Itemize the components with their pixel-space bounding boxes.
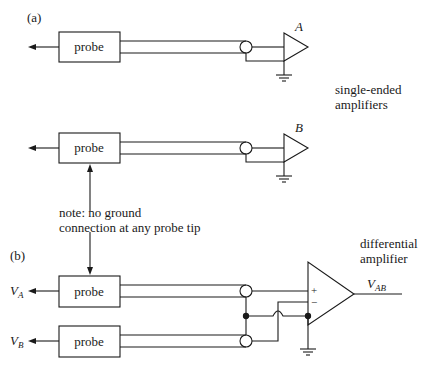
differential-caption-line1: differential — [360, 236, 418, 251]
single-ended-caption-line1: single-ended — [335, 82, 401, 97]
arrow-up-icon — [87, 164, 93, 172]
coax-connector-icon — [240, 41, 252, 53]
output-arrow-icon — [28, 338, 36, 344]
signal-vb-label: VB — [10, 333, 23, 350]
arrow-down-icon — [87, 267, 93, 275]
coax-connector-icon — [240, 142, 252, 154]
coax-connector-icon — [240, 285, 252, 297]
single-ended-caption-line2: amplifiers — [335, 97, 388, 112]
amplifier-a-icon — [284, 33, 308, 61]
panel-b-label: (b) — [10, 248, 25, 263]
amplifier-a-label: A — [295, 19, 303, 34]
probe-label: probe — [59, 335, 119, 349]
note-line1: note: no ground — [59, 205, 141, 220]
probe-label: probe — [59, 141, 119, 155]
output-arrow-icon — [28, 44, 36, 50]
probe-label: probe — [59, 40, 119, 54]
signal-va-label: VA — [10, 283, 23, 300]
note-line2: connection at any probe tip — [59, 220, 201, 235]
probe-label: probe — [59, 285, 119, 299]
minus-input-label: − — [311, 295, 317, 310]
output-arrow-icon — [28, 288, 36, 294]
differential-caption-line2: amplifier — [360, 251, 408, 266]
amplifier-b-icon — [284, 134, 308, 162]
output-vab-label: VAB — [367, 276, 386, 293]
circuit-diagram — [0, 0, 429, 371]
amplifier-b-label: B — [295, 120, 303, 135]
output-arrow-icon — [28, 145, 36, 151]
panel-a-label: (a) — [27, 10, 41, 25]
coax-connector-icon — [240, 335, 252, 347]
